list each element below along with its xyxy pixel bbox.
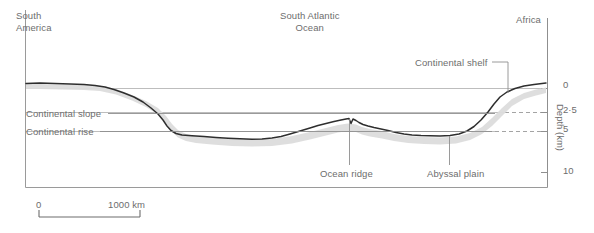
ocean-profile-figure: South America South Atlantic Ocean Afric… [0, 0, 594, 233]
label-continental-shelf: Continental shelf [415, 57, 487, 69]
depth-tick-label-10: 10 [563, 166, 574, 176]
depth-tick-label-0: 0 [563, 80, 568, 90]
label-scale-start: 0 [36, 199, 41, 211]
label-continental-rise: Continental rise [26, 126, 94, 138]
label-continental-slope: Continental slope [26, 108, 101, 120]
depth-axis-title: Depth (km) [555, 104, 566, 151]
label-africa: Africa [516, 14, 541, 26]
label-scale-end: 1000 km [108, 199, 145, 211]
label-ocean-title: South Atlantic Ocean [280, 10, 340, 33]
scale-bar [39, 210, 140, 217]
label-south-america: South America [16, 10, 52, 33]
label-abyssal-plain: Abyssal plain [427, 168, 484, 180]
label-ocean-ridge: Ocean ridge [320, 168, 373, 180]
sediment-layer [26, 84, 546, 147]
